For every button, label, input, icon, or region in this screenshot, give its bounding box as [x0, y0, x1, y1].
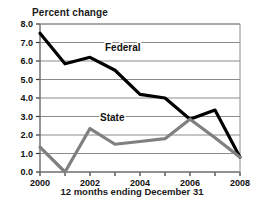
series-lines-group [40, 33, 240, 172]
series-label-state: State [100, 112, 125, 123]
series-label-federal: Federal [105, 42, 141, 53]
y-axis-tick-label: 3.0 [20, 112, 33, 122]
y-axis-tick-label: 4.0 [20, 93, 33, 103]
x-axis-title: 12 months ending December 31 [0, 186, 264, 197]
y-axis-tick-label: 0.0 [20, 167, 33, 177]
y-axis-tick-label: 5.0 [20, 75, 33, 85]
chart-container: Percent change 0.01.02.03.04.05.06.07.08… [0, 0, 264, 206]
y-axis-tick-label: 2.0 [20, 130, 33, 140]
chart-plot-svg: 0.01.02.03.04.05.06.07.08.0 200020022004… [0, 0, 264, 206]
series-labels-group: FederalFederalStateState [100, 42, 141, 123]
y-axis-labels-group: 0.01.02.03.04.05.06.07.08.0 [20, 19, 33, 177]
series-line-state [40, 119, 240, 172]
y-axis-tick-label: 7.0 [20, 38, 33, 48]
y-axis-tick-label: 6.0 [20, 56, 33, 66]
y-axis-tick-label: 1.0 [20, 149, 33, 159]
y-axis-tick-label: 8.0 [20, 19, 33, 29]
